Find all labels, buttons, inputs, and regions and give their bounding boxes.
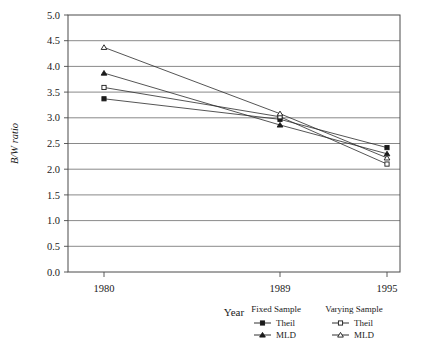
y-tick-label: 0.5 xyxy=(47,241,60,252)
line-chart: 0.00.51.01.52.02.53.03.54.04.55.01980198… xyxy=(0,0,423,350)
legend-group-header: Fixed Sample xyxy=(251,304,301,314)
x-axis-title: Year xyxy=(224,306,245,318)
data-point-varying-sample-mld xyxy=(277,111,283,116)
y-tick-label: 3.5 xyxy=(47,87,60,98)
y-tick-label: 2.0 xyxy=(47,164,60,175)
y-tick-label: 1.5 xyxy=(47,190,60,201)
series-line-varying-sample-theil xyxy=(104,87,387,164)
chart-container: 0.00.51.01.52.02.53.03.54.04.55.01980198… xyxy=(0,0,423,350)
legend-label: Theil xyxy=(276,318,295,328)
data-point-varying-sample-theil xyxy=(385,162,389,166)
legend-group-header: Varying Sample xyxy=(325,304,383,314)
data-point-varying-sample-theil xyxy=(102,85,106,89)
legend-marker-open-square xyxy=(338,321,342,325)
x-tick-label: 1995 xyxy=(377,283,398,294)
data-point-fixed-sample-theil xyxy=(102,97,106,101)
legend-label: Theil xyxy=(354,318,373,328)
x-tick-label: 1989 xyxy=(270,283,291,294)
y-tick-label: 0.0 xyxy=(47,267,60,278)
legend-marker-filled-square xyxy=(260,321,264,325)
y-tick-label: 2.5 xyxy=(47,138,60,149)
legend-label: MLD xyxy=(354,330,375,340)
series-line-fixed-sample-mld xyxy=(104,73,387,154)
x-tick-label: 1980 xyxy=(94,283,115,294)
data-point-fixed-sample-theil xyxy=(385,146,389,150)
legend-label: MLD xyxy=(276,330,297,340)
data-point-varying-sample-mld xyxy=(101,45,107,50)
y-tick-label: 4.5 xyxy=(47,35,60,46)
y-tick-label: 1.0 xyxy=(47,215,60,226)
data-point-fixed-sample-mld xyxy=(101,70,107,75)
y-tick-label: 4.0 xyxy=(47,61,60,72)
y-axis-title: B/W ratio xyxy=(9,123,20,164)
y-tick-label: 3.0 xyxy=(47,112,60,123)
y-tick-label: 5.0 xyxy=(47,10,60,21)
series-line-varying-sample-mld xyxy=(104,47,387,158)
